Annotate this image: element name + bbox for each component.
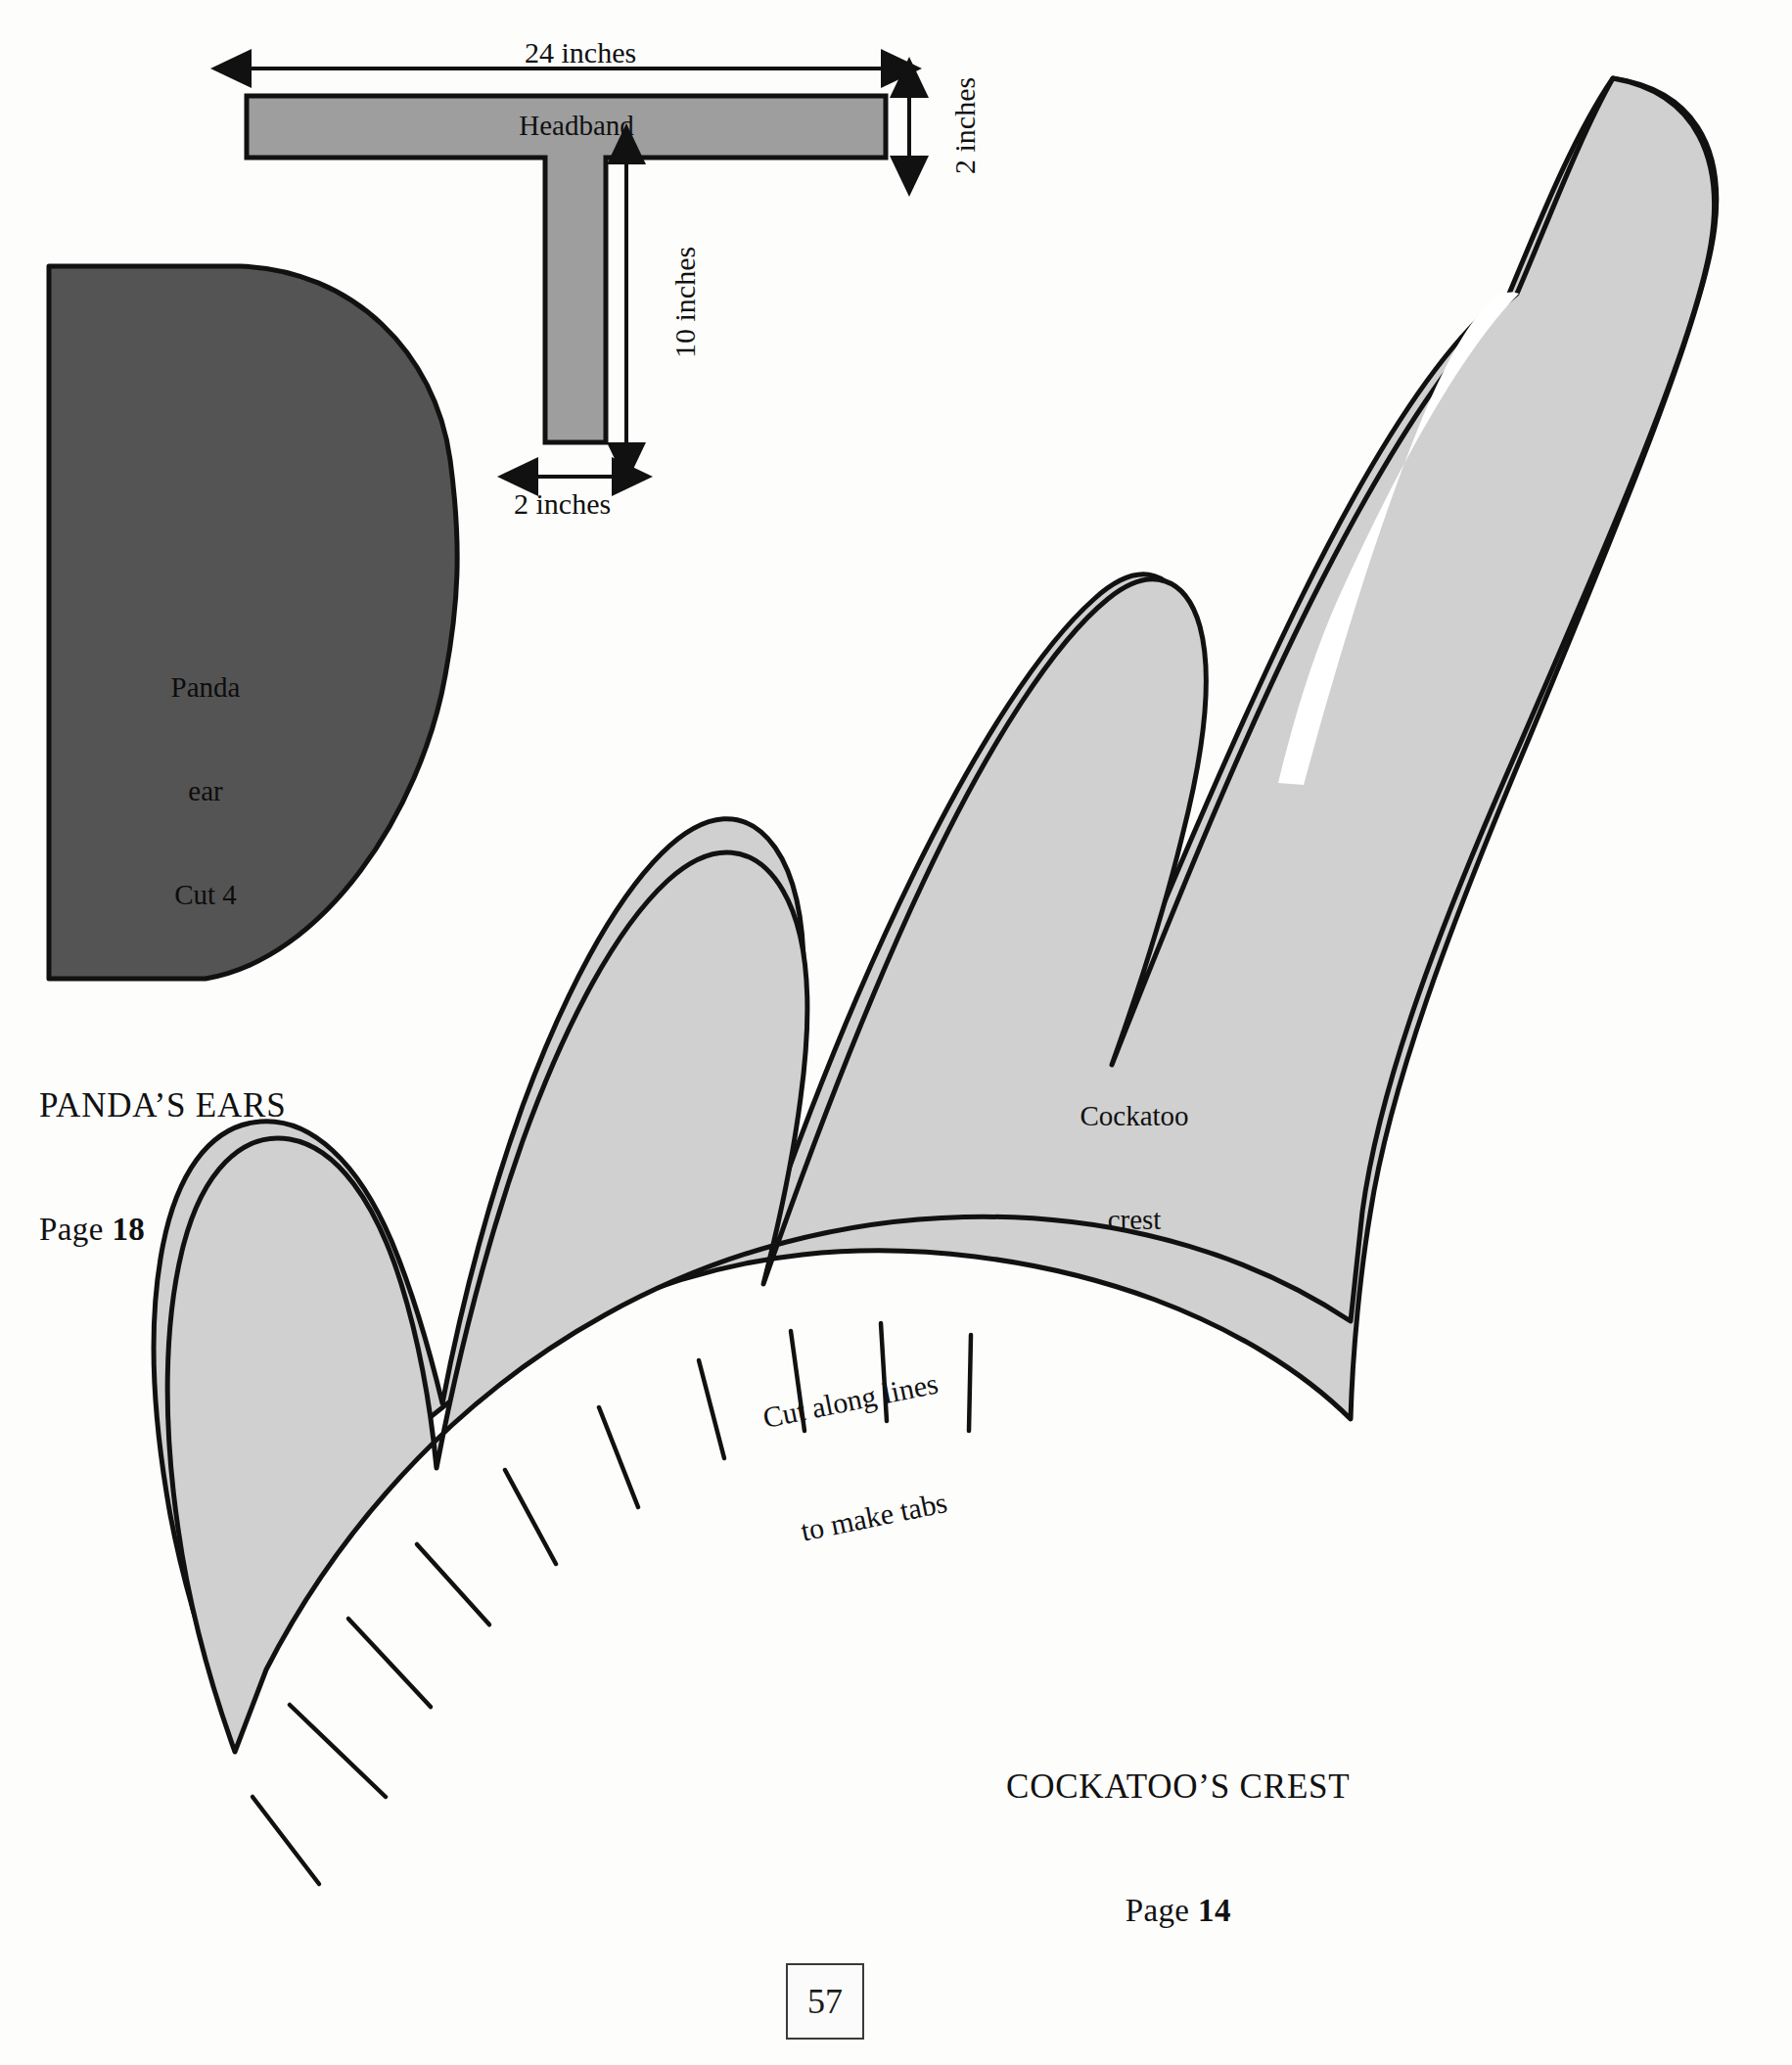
dimension-label-2-inches-width: 2 inches bbox=[514, 486, 611, 523]
cockatoo-crest-caption: COCKATOO’S CREST Page 14 bbox=[1006, 1687, 1351, 2008]
panda-ears-caption: PANDA’S EARS Page 18 bbox=[39, 1006, 286, 1327]
cockatoo-crest-label-line2: crest bbox=[1041, 1203, 1227, 1237]
panda-ear-shape-label: Panda ear Cut 4 bbox=[108, 601, 303, 982]
dimension-label-10-inches: 10 inches bbox=[667, 247, 704, 358]
page-number-box: 57 bbox=[786, 1963, 864, 2040]
panda-ear-label-line1: Panda bbox=[108, 670, 303, 705]
craft-template-page: 24 inches Headband 2 inches 10 inches 2 … bbox=[0, 0, 1792, 2065]
panda-ear-label-line2: ear bbox=[108, 774, 303, 808]
headband-label: Headband bbox=[511, 109, 642, 143]
cut-note-line1: Cut along lines bbox=[736, 1359, 964, 1443]
panda-ears-page-number: 18 bbox=[112, 1212, 145, 1247]
cockatoo-crest-caption-title: COCKATOO’S CREST bbox=[1006, 1767, 1351, 1809]
cockatoo-crest-caption-page: Page 14 bbox=[1006, 1891, 1351, 1930]
panda-ears-caption-title: PANDA’S EARS bbox=[39, 1085, 286, 1127]
cockatoo-crest-page-number: 14 bbox=[1198, 1893, 1231, 1928]
panda-ears-caption-page: Page 18 bbox=[39, 1210, 286, 1249]
cockatoo-crest-shape-label: Cockatoo crest bbox=[1041, 1030, 1227, 1307]
panda-ear-label-line3: Cut 4 bbox=[108, 878, 303, 912]
cockatoo-crest-page-word: Page bbox=[1126, 1893, 1190, 1928]
dimension-label-2-inches-height: 2 inches bbox=[947, 77, 984, 174]
cockatoo-crest-label-line1: Cockatoo bbox=[1041, 1099, 1227, 1133]
dimension-label-24-inches: 24 inches bbox=[525, 35, 636, 71]
cut-note-line2: to make tabs bbox=[759, 1475, 988, 1558]
panda-ears-page-word: Page bbox=[39, 1212, 104, 1247]
